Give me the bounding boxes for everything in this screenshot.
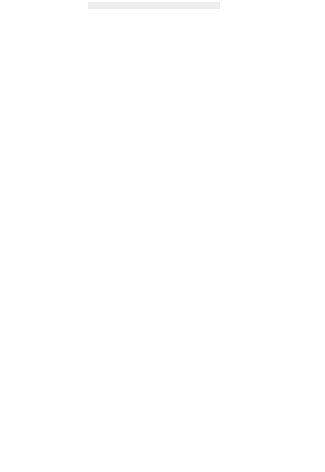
scatter-plot-maintenance-dose [0, 300, 325, 472]
chart-panel-loading-dose [0, 0, 325, 300]
chart-panel-maintenance-dose [0, 300, 325, 472]
scatter-plot-loading-dose [0, 0, 325, 300]
figure-container [0, 0, 325, 472]
